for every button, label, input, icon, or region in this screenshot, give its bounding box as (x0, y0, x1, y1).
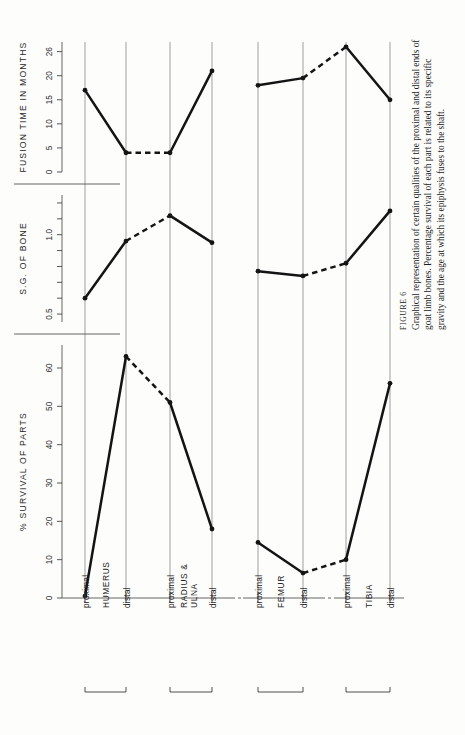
data-segment-sg-3 (258, 271, 303, 276)
figure-number: FIGURE 6 (399, 30, 408, 330)
data-point-sg-5[interactable] (301, 274, 306, 279)
bone-label-1-line-0: RADIUS & (179, 564, 189, 608)
data-segment-fusion-2 (170, 71, 212, 153)
figure-caption-block: FIGURE 6 Graphical representation of cer… (399, 30, 447, 330)
data-point-fusion-2[interactable] (168, 150, 173, 155)
figure-caption-text: Graphical representation of certain qual… (410, 38, 447, 330)
data-point-sg-3[interactable] (210, 240, 215, 245)
bone-bracket-2 (258, 687, 303, 692)
figure-svg: 0510152026FUSION TIME IN MONTHS0.51.0S.G… (0, 0, 465, 735)
data-point-sg-1[interactable] (124, 239, 129, 244)
tick-label-survival-3: 30 (45, 478, 54, 488)
end-label-7: distal (387, 587, 396, 608)
tick-label-fusion-0: 0 (45, 169, 54, 174)
bone-label-0: HUMERUS (101, 561, 111, 608)
tick-label-fusion-1: 5 (45, 145, 54, 150)
tick-label-sg-5: 1.0 (45, 229, 54, 241)
data-point-fusion-5[interactable] (301, 76, 306, 81)
data-segment-fusion-4 (303, 47, 346, 78)
end-label-2: proximal (167, 575, 176, 608)
data-segment-fusion-3 (258, 78, 303, 85)
data-point-fusion-0[interactable] (83, 88, 88, 93)
tick-label-survival-4: 40 (45, 440, 54, 450)
tick-label-fusion-3: 15 (45, 95, 54, 105)
tick-label-survival-1: 10 (45, 555, 54, 565)
data-segment-survival-1 (126, 357, 170, 403)
data-segment-sg-1 (126, 216, 170, 241)
data-point-sg-2[interactable] (168, 213, 173, 218)
data-point-sg-6[interactable] (344, 261, 349, 266)
tick-label-fusion-2: 10 (45, 119, 54, 129)
data-segment-survival-5 (346, 383, 390, 559)
bone-bracket-3 (346, 687, 390, 692)
data-point-survival-7[interactable] (388, 381, 393, 386)
tick-label-sg-0: 0.5 (45, 308, 54, 320)
axis-title-survival: % SURVIVAL OF PARTS (18, 412, 28, 531)
bone-label-3: TIBIA (364, 584, 374, 608)
data-segment-fusion-5 (346, 47, 390, 100)
data-point-survival-1[interactable] (124, 354, 129, 359)
data-point-sg-7[interactable] (388, 208, 393, 213)
data-point-sg-4[interactable] (256, 269, 261, 274)
data-point-fusion-3[interactable] (210, 68, 215, 73)
data-point-survival-4[interactable] (256, 540, 261, 545)
tick-label-fusion-4: 20 (45, 71, 54, 81)
data-point-survival-6[interactable] (344, 557, 349, 562)
tick-label-fusion-5: 26 (45, 47, 54, 57)
data-point-survival-3[interactable] (210, 527, 215, 532)
data-point-fusion-1[interactable] (124, 150, 129, 155)
data-segment-survival-2 (170, 403, 212, 530)
end-label-5: distal (300, 587, 309, 608)
tick-label-survival-6: 60 (45, 363, 54, 373)
bone-label-2: FEMUR (276, 575, 286, 608)
figure-page: 0510152026FUSION TIME IN MONTHS0.51.0S.G… (0, 0, 465, 735)
end-label-4: proximal (255, 575, 264, 608)
end-label-6: proximal (343, 575, 352, 608)
end-label-0: proximal (82, 575, 91, 608)
data-segment-survival-4 (303, 560, 346, 573)
end-label-3: distal (209, 587, 218, 608)
data-segment-survival-0 (85, 357, 126, 597)
data-segment-fusion-0 (85, 90, 126, 153)
axis-title-sg: S.G. OF BONE (18, 222, 28, 295)
data-point-fusion-7[interactable] (388, 97, 393, 102)
data-point-fusion-4[interactable] (256, 83, 261, 88)
bone-label-1-line-1: ULNA (189, 583, 199, 608)
data-point-survival-2[interactable] (168, 400, 173, 405)
tick-label-survival-5: 50 (45, 401, 54, 411)
data-point-sg-0[interactable] (83, 296, 88, 301)
tick-label-survival-2: 20 (45, 516, 54, 526)
data-segment-sg-4 (303, 263, 346, 276)
tick-label-survival-0: 0 (45, 595, 54, 600)
axis-title-fusion: FUSION TIME IN MONTHS (18, 41, 28, 172)
bone-bracket-1 (170, 687, 212, 692)
data-segment-sg-2 (170, 216, 212, 243)
data-segment-sg-0 (85, 241, 126, 298)
data-segment-survival-3 (258, 542, 303, 573)
data-point-survival-5[interactable] (301, 571, 306, 576)
data-segment-sg-5 (346, 211, 390, 263)
data-point-fusion-6[interactable] (344, 44, 349, 49)
end-label-1: distal (123, 587, 132, 608)
bone-bracket-0 (85, 687, 126, 692)
